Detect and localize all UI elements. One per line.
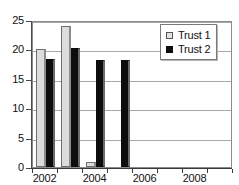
y-axis-tick [26, 80, 32, 81]
chart-legend: Trust 1 Trust 2 [160, 24, 217, 60]
bar-chart: 0510152025 2002200420062008 Trust 1 Trus… [0, 0, 239, 185]
x-axis-tick [157, 169, 158, 173]
bar-trust-2-2005 [121, 60, 130, 167]
y-axis-tick-label: 15 [0, 73, 24, 85]
bar-trust-2-2004 [96, 60, 105, 167]
x-axis-tick-label: 2006 [133, 172, 157, 184]
x-axis-tick [107, 169, 108, 173]
y-axis-tick-label: 5 [0, 132, 24, 144]
y-axis-tick [26, 139, 32, 140]
x-axis-tick-label: 2008 [183, 172, 207, 184]
x-axis-tick [232, 169, 233, 173]
bar-trust-2-2003 [71, 48, 80, 167]
y-axis-line [31, 21, 32, 169]
legend-label-trust-1: Trust 1 [178, 30, 210, 41]
y-axis-tick [26, 109, 32, 110]
y-axis-tick-label: 0 [0, 161, 24, 173]
legend-label-trust-2: Trust 2 [178, 44, 210, 55]
y-axis-tick-label: 25 [0, 14, 24, 26]
bar-trust-1-2003 [61, 26, 70, 167]
x-axis-tick [57, 169, 58, 173]
y-axis-tick [26, 21, 32, 22]
legend-item-trust-1: Trust 1 [166, 28, 210, 42]
y-axis-tick-label: 20 [0, 43, 24, 55]
x-axis-tick-label: 2004 [83, 172, 107, 184]
bar-trust-1-2002 [36, 49, 45, 167]
y-axis-tick [26, 50, 32, 51]
gridline [33, 22, 231, 23]
bar-trust-2-2002 [46, 59, 55, 167]
x-axis-tick-label: 2002 [33, 172, 57, 184]
x-axis-tick [207, 169, 208, 173]
legend-item-trust-2: Trust 2 [166, 42, 210, 56]
bar-trust-1-2004 [86, 162, 95, 167]
y-axis-tick-label: 10 [0, 102, 24, 114]
light-square-swatch-icon [166, 32, 173, 39]
dark-square-swatch-icon [166, 46, 173, 53]
